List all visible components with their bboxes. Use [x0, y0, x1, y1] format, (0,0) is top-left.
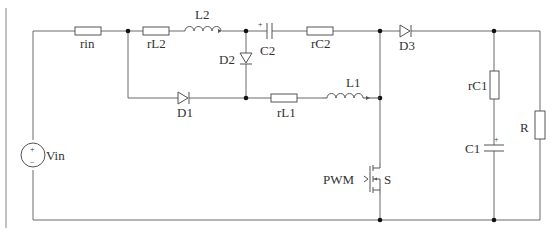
- label-s: S: [384, 172, 391, 187]
- inductor-icon: [185, 27, 221, 32]
- mosfet-icon: [364, 163, 380, 195]
- junction-dot: [492, 218, 497, 223]
- label-c1: C1: [465, 141, 480, 156]
- junction-dot: [378, 218, 383, 223]
- label-d2: D2: [219, 52, 235, 67]
- minus-sign: −: [30, 158, 35, 167]
- plus-sign: +: [30, 145, 35, 154]
- diode-icon: [400, 25, 410, 37]
- label-rin: rin: [80, 36, 95, 51]
- capacitor-c2: + C2: [258, 20, 275, 58]
- wire-vin-top: [33, 31, 75, 140]
- junction-dot: [244, 29, 249, 34]
- label-vin: Vin: [46, 148, 65, 163]
- plus-sign: +: [258, 20, 263, 29]
- mosfet-switch-s: PWM S: [323, 163, 391, 195]
- resistor-icon: [307, 27, 333, 35]
- junction-dot: [492, 29, 497, 34]
- label-d1: D1: [177, 105, 193, 120]
- diode-d3: D3: [399, 25, 415, 53]
- plus-sign: +: [494, 135, 499, 144]
- resistor-rl1: rL1: [271, 94, 297, 120]
- resistor-icon: [75, 27, 101, 35]
- wires: [33, 31, 540, 220]
- diode-icon: [178, 92, 188, 104]
- junctions: [126, 29, 497, 223]
- junction-dot: [378, 29, 383, 34]
- label-l1: L1: [346, 75, 360, 90]
- junction-dot: [244, 96, 249, 101]
- resistor-rc1: rC1: [468, 71, 499, 99]
- junction-dot: [126, 29, 131, 34]
- label-l2: L2: [195, 7, 209, 22]
- label-rl1: rL1: [277, 105, 296, 120]
- diode-d1: D1: [177, 92, 193, 120]
- inductor-l1: L1: [322, 75, 380, 100]
- voltage-source-vin: + − Vin: [21, 143, 65, 167]
- inductor-icon: [327, 94, 363, 99]
- capacitor-c1: + C1: [465, 135, 504, 156]
- label-r: R: [520, 120, 529, 135]
- circuit-diagram: + − Vin rin rL2 L2 + C2 rC2 D3 D2: [0, 0, 560, 235]
- resistor-rin: rin: [75, 27, 101, 51]
- resistor-icon: [143, 27, 169, 35]
- label-d3: D3: [399, 38, 415, 53]
- label-pwm: PWM: [323, 172, 355, 187]
- diode-icon: [240, 53, 252, 63]
- diode-d2: D2: [219, 52, 252, 67]
- resistor-icon: [535, 111, 545, 139]
- resistor-rc2: rC2: [307, 27, 333, 51]
- label-rc1: rC1: [468, 78, 488, 93]
- resistor-r-load: R: [520, 111, 545, 139]
- inductor-l2: L2: [185, 7, 222, 33]
- label-rl2: rL2: [147, 36, 166, 51]
- resistor-icon: [490, 71, 499, 99]
- resistor-icon: [271, 94, 297, 102]
- label-rc2: rC2: [311, 36, 331, 51]
- label-c2: C2: [260, 43, 275, 58]
- resistor-rl2: rL2: [143, 27, 169, 51]
